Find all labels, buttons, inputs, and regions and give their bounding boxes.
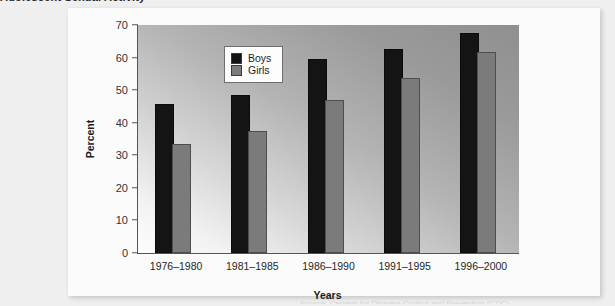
chart-legend: Boys Girls xyxy=(224,46,283,83)
bar-group xyxy=(155,25,189,253)
y-axis-tick xyxy=(132,122,138,123)
bar-girls[interactable] xyxy=(325,100,344,253)
y-axis-tick-label: 30 xyxy=(116,149,128,161)
y-axis-tick xyxy=(132,220,138,221)
legend-item-girls: Girls xyxy=(231,65,276,76)
x-axis-tick-label: 1986–1990 xyxy=(302,260,355,272)
legend-label-girls: Girls xyxy=(248,65,270,76)
y-axis-tick xyxy=(132,24,138,25)
x-axis-tick-label: 1991–1995 xyxy=(378,260,431,272)
y-axis-tick-label: 60 xyxy=(116,52,128,64)
bar-girls[interactable] xyxy=(172,144,191,253)
plot-area: 706050403020100 1976–19801981–19851986–1… xyxy=(137,25,519,254)
bar-group xyxy=(308,25,342,253)
legend-swatch-girls-icon xyxy=(231,65,242,76)
y-axis-tick-label: 70 xyxy=(116,19,128,31)
y-axis-tick-label: 10 xyxy=(116,214,128,226)
y-axis-tick-label: 40 xyxy=(116,117,128,129)
y-axis-title: Percent xyxy=(84,120,96,159)
x-axis-tick-label: 1996–2000 xyxy=(455,260,508,272)
y-axis-tick xyxy=(132,155,138,156)
footer-source-artifact: Source: Centers for Disease Control and … xyxy=(300,299,600,304)
y-axis-tick xyxy=(132,57,138,58)
x-axis-tick-label: 1976–1980 xyxy=(150,260,203,272)
y-axis-tick xyxy=(132,252,138,253)
bar-group xyxy=(384,25,418,253)
y-axis-tick-label: 0 xyxy=(122,247,128,259)
bar-chart: Percent 706050403020100 1976–19801981–19… xyxy=(68,8,600,296)
bar-girls[interactable] xyxy=(401,78,420,253)
y-axis-tick-label: 50 xyxy=(116,84,128,96)
clipped-page-heading: Adolescent Sexual Activity xyxy=(0,0,160,3)
legend-item-boys: Boys xyxy=(231,53,276,64)
bar-group xyxy=(460,25,494,253)
y-axis-tick xyxy=(132,187,138,188)
legend-label-boys: Boys xyxy=(248,53,271,64)
figure-card: Percent 706050403020100 1976–19801981–19… xyxy=(68,8,600,296)
bar-girls[interactable] xyxy=(477,52,496,253)
bar-girls[interactable] xyxy=(248,131,267,254)
y-axis-tick-label: 20 xyxy=(116,182,128,194)
x-axis-tick-label: 1981–1985 xyxy=(226,260,279,272)
legend-swatch-boys-icon xyxy=(231,53,242,64)
y-axis-tick xyxy=(132,89,138,90)
